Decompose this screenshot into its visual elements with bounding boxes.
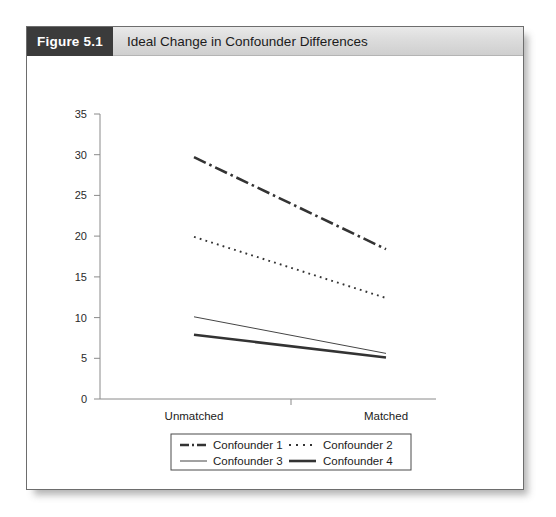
figure-frame: Figure 5.1 Ideal Change in Confounder Di…	[26, 26, 524, 490]
figure-header: Figure 5.1 Ideal Change in Confounder Di…	[27, 27, 523, 56]
y-tick-label-35: 35	[75, 108, 87, 120]
legend-label-confounder-2: Confounder 2	[323, 439, 393, 451]
series-line-confounder-2	[194, 237, 386, 298]
y-axis-ticks	[94, 114, 100, 399]
y-tick-label-10: 10	[75, 312, 87, 324]
y-tick-label-5: 5	[81, 352, 87, 364]
y-tick-label-25: 25	[75, 189, 87, 201]
figure-number-tag: Figure 5.1	[27, 27, 113, 56]
y-tick-label-20: 20	[75, 230, 87, 242]
x-category-label-matched: Matched	[364, 410, 408, 422]
series-line-confounder-4	[194, 335, 386, 358]
line-chart-svg: 0 5 10 15 20 25 30 35 Unmatched Matched	[27, 56, 525, 490]
chart-legend: Confounder 1 Confounder 2 Confounder 3 C…	[171, 434, 411, 470]
series-confounder-1	[194, 157, 386, 249]
series-line-confounder-1	[194, 157, 386, 249]
x-category-label-unmatched: Unmatched	[165, 410, 224, 422]
series-confounder-4	[194, 335, 386, 358]
y-tick-label-15: 15	[75, 271, 87, 283]
chart-plot-area: 0 5 10 15 20 25 30 35 Unmatched Matched	[27, 56, 525, 490]
y-tick-label-30: 30	[75, 149, 87, 161]
legend-label-confounder-1: Confounder 1	[213, 439, 283, 451]
figure-screenshot: Figure 5.1 Ideal Change in Confounder Di…	[0, 0, 556, 517]
y-axis-tick-labels: 0 5 10 15 20 25 30 35	[75, 108, 87, 405]
series-confounder-3	[194, 317, 386, 354]
legend-label-confounder-3: Confounder 3	[213, 455, 283, 467]
y-tick-label-0: 0	[81, 393, 87, 405]
series-confounder-2	[194, 237, 386, 298]
series-line-confounder-3	[194, 317, 386, 354]
legend-label-confounder-4: Confounder 4	[323, 455, 393, 467]
figure-caption: Ideal Change in Confounder Differences	[127, 27, 368, 56]
